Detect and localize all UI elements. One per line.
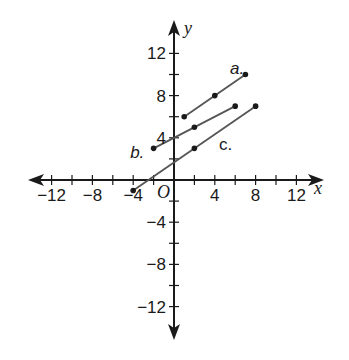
segment-label: c. [219, 135, 232, 154]
y-tick-label: −12 [137, 298, 166, 317]
plot-area: a.b.c. −12−8−448121284−4−8−12xyO [0, 0, 349, 360]
segment-label: b. [130, 143, 144, 162]
axis-labels: −12−8−448121284−4−8−12xyO [37, 18, 322, 317]
segment-point [181, 114, 187, 120]
segment-a: a. [181, 59, 248, 119]
x-tick-label: −4 [124, 186, 143, 205]
segment-point [212, 93, 218, 99]
segment-point [232, 103, 238, 109]
x-tick-label: −8 [83, 186, 102, 205]
y-tick-label: 4 [157, 129, 166, 148]
y-axis-label: y [182, 18, 192, 38]
x-tick-label: 12 [287, 186, 306, 205]
segment-point [253, 103, 259, 109]
y-tick-label: −4 [147, 213, 166, 232]
segment-point [192, 146, 198, 152]
coordinate-plane-chart: a.b.c. −12−8−448121284−4−8−12xyO [0, 0, 349, 360]
x-axis-label: x [313, 178, 322, 198]
y-tick-label: 8 [157, 87, 166, 106]
y-tick-label: 12 [147, 44, 166, 63]
origin-label: O [157, 182, 170, 202]
segment-label: a. [230, 59, 244, 78]
x-tick-label: 8 [251, 186, 260, 205]
x-tick-label: 4 [210, 186, 219, 205]
y-tick-label: −8 [147, 255, 166, 274]
line-segments: a.b.c. [130, 59, 258, 193]
x-tick-label: −12 [37, 186, 66, 205]
segment-point [192, 124, 198, 130]
